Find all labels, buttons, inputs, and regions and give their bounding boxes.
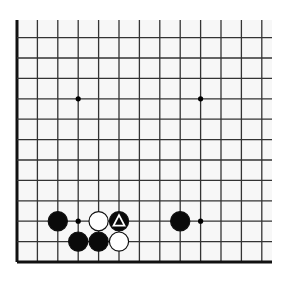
hoshi-dot-icon <box>198 96 203 101</box>
go-board <box>0 0 291 282</box>
white-stone <box>109 232 128 251</box>
black-stone <box>48 212 67 231</box>
black-stone <box>89 232 108 251</box>
black-stone <box>109 212 128 231</box>
black-stone-icon <box>69 232 88 251</box>
black-stone <box>171 212 190 231</box>
black-stone-icon <box>48 212 67 231</box>
white-stone <box>89 212 108 231</box>
black-stone-icon <box>89 232 108 251</box>
hoshi-dot-icon <box>76 219 81 224</box>
white-stone-icon <box>89 212 108 231</box>
white-stone-icon <box>109 232 128 251</box>
black-stone-icon <box>171 212 190 231</box>
black-stone <box>69 232 88 251</box>
hoshi-dot-icon <box>198 219 203 224</box>
hoshi-dot-icon <box>76 96 81 101</box>
